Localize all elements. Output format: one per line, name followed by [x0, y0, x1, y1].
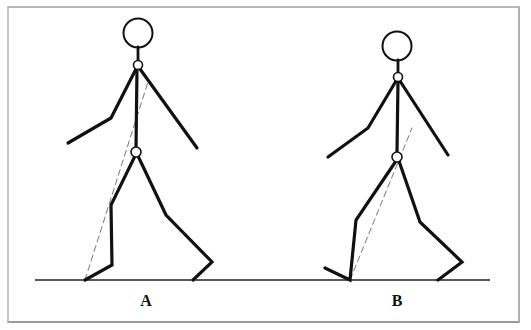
figure-a-back-arm	[68, 69, 136, 143]
figure-b-reference-line	[350, 128, 412, 280]
figure-a-label: A	[131, 292, 161, 310]
figure-b-hip-joint	[392, 152, 402, 162]
walking-figures-diagram	[0, 0, 531, 330]
figure-b-head	[383, 32, 412, 61]
figure-a-head	[124, 19, 153, 48]
figure-b-shoulder-joint	[394, 73, 403, 82]
figure-b-front-arm	[400, 81, 448, 155]
figure-b-label: B	[382, 292, 412, 310]
figure-a	[68, 19, 212, 281]
figure-a-back-leg	[85, 156, 135, 280]
figure-a-front-arm	[140, 69, 197, 148]
figure-b-torso	[397, 81, 398, 152]
figure-a-front-leg	[138, 156, 212, 280]
figure-b-back-arm	[328, 81, 396, 157]
figure-a-shoulder-joint	[134, 61, 143, 70]
figure-a-hip-joint	[131, 147, 141, 157]
figure-b-back-leg	[325, 161, 396, 280]
figure-b-front-leg	[399, 161, 462, 280]
figure-b	[325, 32, 462, 281]
figure-a-torso	[136, 68, 137, 148]
figure-a-reference-line	[85, 82, 148, 280]
